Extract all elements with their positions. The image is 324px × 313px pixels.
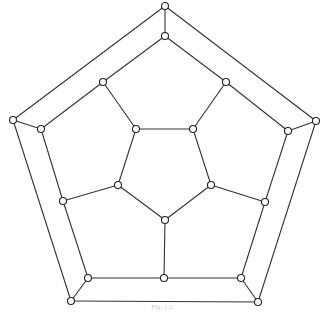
graph-vertex: [100, 79, 107, 86]
figure-caption: Fig. 1.2: [0, 303, 324, 311]
graph-edge: [118, 129, 136, 185]
graph-edge: [241, 202, 265, 278]
graph-vertex: [285, 128, 292, 135]
graph-vertex: [162, 3, 169, 10]
graph-vertex: [262, 199, 269, 206]
graph-edge: [193, 129, 211, 185]
graph-edge: [288, 121, 316, 131]
dodecahedral-graph: [0, 0, 324, 313]
graph-vertex: [162, 217, 169, 224]
graph-vertex: [190, 126, 197, 133]
graph-vertex: [313, 118, 320, 125]
graph-vertex: [115, 182, 122, 189]
graph-edge: [63, 201, 88, 278]
graph-edge: [226, 82, 288, 131]
graph-edge: [193, 82, 226, 129]
graph-edge: [164, 220, 165, 278]
graph-vertex: [60, 198, 67, 205]
graph-edge: [103, 36, 165, 82]
graph-vertex: [223, 79, 230, 86]
graph-vertex: [238, 275, 245, 282]
graph-edge: [165, 36, 226, 82]
graph-edge: [71, 278, 88, 301]
graph-vertex: [10, 117, 17, 124]
graph-edge: [241, 278, 258, 302]
graph-edge: [41, 129, 63, 201]
graph-edge: [103, 82, 136, 129]
graph-edge: [118, 185, 165, 220]
graph-vertex: [162, 33, 169, 40]
graph-edge: [63, 185, 118, 201]
graph-edge: [211, 185, 265, 202]
graph-vertex: [38, 126, 45, 133]
graph-edge: [13, 120, 41, 129]
graph-edge: [265, 131, 288, 202]
graph-edge: [258, 121, 316, 302]
graph-vertex: [161, 275, 168, 282]
graph-vertex: [208, 182, 215, 189]
graph-edge: [165, 6, 316, 121]
graph-edge: [165, 185, 211, 220]
graph-vertex: [85, 275, 92, 282]
graph-edge: [13, 120, 71, 301]
graph-edges: [13, 6, 316, 302]
graph-vertex: [133, 126, 140, 133]
graph-edge: [13, 6, 165, 120]
graph-edge: [71, 301, 258, 302]
graph-edge: [41, 82, 103, 129]
